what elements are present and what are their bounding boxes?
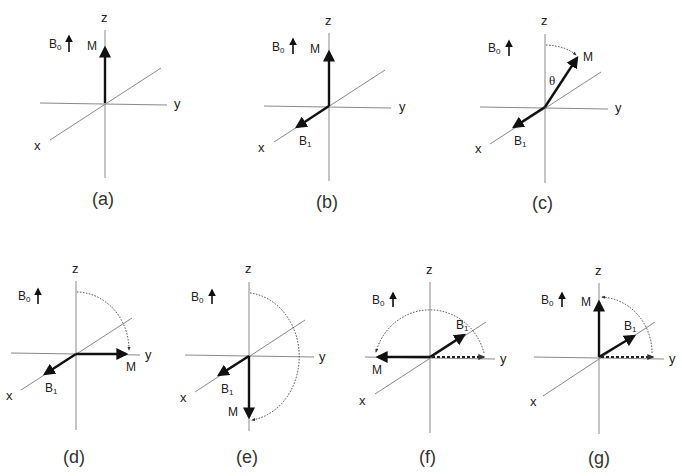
- b1-vector-arrow: [599, 336, 634, 357]
- b0-symbol: B: [372, 293, 380, 307]
- y-axis-label: y: [669, 352, 676, 365]
- panel-e: [185, 282, 314, 431]
- b0-subscript: 0: [496, 47, 500, 56]
- m-label: M: [228, 406, 238, 418]
- b0-subscript: 0: [26, 295, 30, 304]
- b1-symbol: B: [221, 382, 229, 396]
- y-axis-label: y: [615, 101, 622, 114]
- b0-symbol: B: [272, 40, 280, 54]
- b0-subscript: 0: [57, 43, 61, 52]
- b0-symbol: B: [49, 37, 57, 51]
- b1-vector-arrow: [297, 106, 329, 127]
- b0-symbol: B: [191, 290, 199, 304]
- z-axis-label: z: [426, 263, 433, 276]
- rotation-path: [77, 292, 129, 350]
- b0-symbol: B: [488, 41, 496, 55]
- m-label: M: [310, 43, 320, 55]
- b1-vector-arrow: [45, 354, 76, 374]
- b0-subscript: 0: [280, 46, 284, 55]
- b1-symbol: B: [456, 318, 464, 332]
- panel-caption: (c): [532, 194, 553, 212]
- z-axis-label: z: [245, 262, 252, 275]
- y-axis-label: y: [399, 100, 406, 113]
- x-axis-label: x: [475, 142, 482, 155]
- b1-subscript: 1: [464, 324, 468, 333]
- b0-subscript: 0: [549, 299, 553, 308]
- m-label: M: [87, 40, 97, 52]
- y-axis-label: y: [500, 352, 507, 365]
- b1-vector-arrow: [219, 356, 249, 375]
- y-axis-label: y: [174, 97, 181, 110]
- panel-caption: (a): [92, 190, 114, 208]
- z-axis-label: z: [72, 262, 79, 275]
- nmr-magnetization-diagram: [0, 0, 682, 476]
- y-axis-label: y: [145, 348, 152, 361]
- b0-symbol: B: [541, 293, 549, 307]
- panel-caption: (d): [63, 448, 85, 466]
- z-axis-label: z: [325, 14, 332, 27]
- b0-subscript: 0: [199, 296, 203, 305]
- panel-caption: (f): [419, 448, 436, 466]
- panel-a: [40, 30, 167, 178]
- b1-subscript: 1: [522, 140, 526, 149]
- panel-caption: (g): [588, 449, 610, 467]
- b1-subscript: 1: [632, 325, 636, 334]
- b0-label: B0: [488, 42, 500, 56]
- b1-subscript: 1: [53, 387, 57, 396]
- z-axis-label: z: [595, 264, 602, 277]
- x-axis-label: x: [6, 389, 13, 402]
- x-axis-label: x: [359, 394, 366, 407]
- b1-symbol: B: [299, 134, 307, 148]
- b1-label: B1: [221, 383, 233, 397]
- b1-vector-arrow: [514, 107, 545, 127]
- x-axis-label: x: [530, 395, 537, 408]
- b1-subscript: 1: [307, 140, 311, 149]
- panel-caption: (b): [316, 193, 338, 211]
- x-axis-label: x: [258, 141, 265, 154]
- panel-caption: (e): [236, 448, 258, 466]
- rotation-path: [546, 45, 576, 55]
- axes: [40, 30, 167, 178]
- b1-label: B1: [299, 135, 311, 149]
- b1-symbol: B: [514, 134, 522, 148]
- b0-subscript: 0: [380, 299, 384, 308]
- x-axis-label: x: [34, 139, 41, 152]
- b1-symbol: B: [45, 381, 53, 395]
- b0-label: B0: [18, 290, 30, 304]
- b1-label: B1: [624, 320, 636, 334]
- b0-label: B0: [372, 294, 384, 308]
- theta-angle-label: θ: [549, 74, 555, 87]
- m-label: M: [372, 364, 382, 376]
- panel-g: [534, 283, 664, 434]
- panel-b: [264, 33, 391, 181]
- z-axis-label: z: [541, 14, 548, 27]
- b0-label: B0: [49, 38, 61, 52]
- panel-f: [365, 282, 495, 433]
- b1-label: B1: [514, 135, 526, 149]
- x-axis-label: x: [180, 391, 187, 404]
- b0-label: B0: [272, 41, 284, 55]
- b1-subscript: 1: [229, 388, 233, 397]
- b1-label: B1: [456, 319, 468, 333]
- y-axis: [40, 103, 167, 105]
- m-label: M: [126, 361, 136, 373]
- m-label: M: [583, 51, 593, 63]
- y-axis-label: y: [319, 350, 326, 363]
- b1-symbol: B: [624, 319, 632, 333]
- b0-label: B0: [541, 294, 553, 308]
- z-axis-label: z: [101, 11, 108, 24]
- b1-vector-arrow: [430, 335, 464, 357]
- b1-label: B1: [45, 382, 57, 396]
- b0-label: B0: [191, 291, 203, 305]
- b0-symbol: B: [18, 289, 26, 303]
- m-label: M: [581, 296, 591, 308]
